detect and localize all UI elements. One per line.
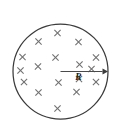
figure-canvas: R [0, 0, 120, 132]
radius-label: R [74, 72, 81, 82]
physics-figure: R [0, 0, 120, 132]
